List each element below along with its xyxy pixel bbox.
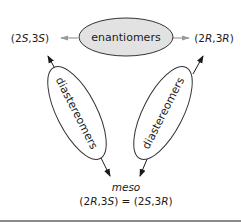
right-diastereomers-relation: diastereomers (122, 56, 204, 176)
meso-equation: (2R,3S) = (2S,3R) (79, 195, 172, 207)
bottom-rule (0, 220, 241, 222)
arrow-to-2R3R-from-right (193, 56, 203, 74)
node-2R3R: (2R,3R) (194, 32, 234, 44)
enantiomers-relation: enantiomers (61, 18, 189, 56)
enantiomers-label: enantiomers (91, 31, 161, 44)
meso-title: meso (112, 181, 141, 193)
left-diastereomers-relation: diastereomers (36, 56, 118, 176)
node-2S3S: (2S,3S) (11, 32, 49, 44)
stereoisomer-diagram: enantiomers (2S,3S) (2R,3R) diastereomer… (0, 0, 241, 224)
